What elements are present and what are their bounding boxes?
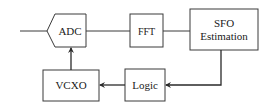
adc-block: ADC — [47, 14, 86, 47]
logic-block: Logic — [125, 69, 165, 101]
sfo-label-line1: SFO — [214, 17, 234, 29]
sfo-label-line2: Estimation — [200, 30, 248, 42]
vcxo-block: VCXO — [43, 70, 99, 101]
block-diagram: ADC FFT SFO Estimation Logic VCXO — [0, 0, 267, 108]
fft-label: FFT — [138, 26, 155, 37]
fft-block: FFT — [130, 14, 163, 47]
sfo-estimation-block: SFO Estimation — [190, 9, 258, 50]
adc-label: ADC — [58, 25, 81, 37]
logic-label: Logic — [132, 79, 158, 91]
sfo-logic-arrow — [166, 50, 221, 85]
vcxo-label: VCXO — [55, 79, 86, 91]
